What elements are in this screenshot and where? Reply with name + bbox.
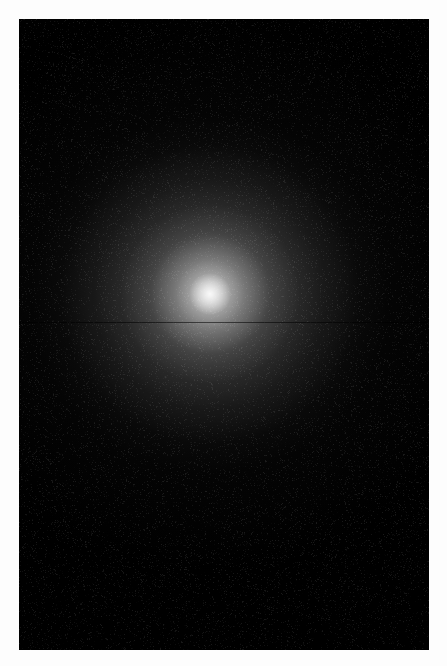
starfield-canvas: [19, 19, 429, 650]
astronomical-plate: [19, 19, 429, 650]
image-page: Black and white astronomical image of a …: [0, 0, 447, 666]
plate-alt-text: Black and white astronomical image of a …: [0, 0, 1, 1]
